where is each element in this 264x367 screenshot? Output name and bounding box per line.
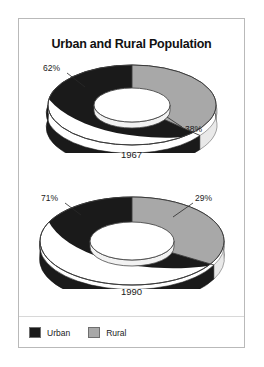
legend-divider [19, 316, 244, 317]
donut-1967-leader-lines [19, 61, 219, 153]
chart-legend: Urban Rural [29, 327, 126, 338]
legend-label-urban: Urban [47, 328, 70, 338]
legend-item-urban[interactable]: Urban [29, 327, 70, 338]
donut-1990-urban-percent: 71% [41, 193, 58, 203]
legend-swatch-rural-icon [88, 327, 100, 338]
donut-chart-1990: 71% 29% 1990 [19, 189, 244, 314]
donut-1990-rural-percent: 29% [195, 193, 212, 203]
legend-item-rural[interactable]: Rural [88, 327, 126, 338]
page-title: Urban and Rural Population [19, 37, 244, 51]
donut-chart-1967: 62% 38% 1967 [19, 61, 244, 186]
legend-label-rural: Rural [106, 328, 126, 338]
donut-1967-year-label: 1967 [19, 149, 244, 160]
donut-1990-year-label: 1990 [19, 286, 244, 297]
donut-1967-urban-percent: 62% [43, 63, 60, 73]
donut-1990-leader-lines [19, 189, 219, 289]
donut-1967-rural-percent: 38% [185, 124, 202, 134]
legend-swatch-urban-icon [29, 327, 41, 338]
chart-frame: Urban and Rural Population [18, 18, 245, 348]
